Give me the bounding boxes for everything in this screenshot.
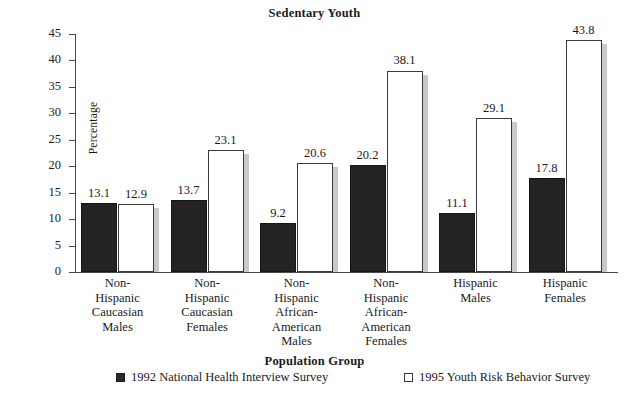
bar-value-label: 11.1 [433, 196, 481, 211]
legend-swatch-filled-icon [116, 373, 125, 382]
y-axis-tick [69, 140, 75, 141]
y-axis-tick-label: 5 [31, 239, 61, 252]
x-axis-category-label-line: Non- [336, 276, 437, 291]
x-axis-category-label-line: American [246, 320, 347, 335]
x-axis-category-label-line: Hispanic [425, 276, 526, 291]
bar[interactable] [171, 200, 207, 272]
bar-value-label: 23.1 [202, 133, 250, 148]
x-axis-category-label-line: African- [336, 305, 437, 320]
y-axis-tick-label: 45 [31, 27, 61, 40]
bar[interactable] [387, 71, 423, 273]
bar[interactable] [297, 163, 333, 272]
bar-value-label: 13.7 [165, 183, 213, 198]
bar-value-label: 17.8 [523, 161, 571, 176]
x-axis-category-label-line: Non- [157, 276, 258, 291]
x-axis-category-label-line: Hispanic [157, 291, 258, 306]
x-axis-category-label-line: Females [515, 291, 616, 306]
bar-value-label: 20.6 [291, 146, 339, 161]
bar-shadow [512, 122, 517, 272]
plot-area: 454035302520151050 13.112.913.723.19.220… [75, 34, 618, 272]
x-axis-category-label: Non-HispanicAfrican-AmericanFemales [336, 276, 437, 349]
bar-value-label: 29.1 [470, 101, 518, 116]
y-axis-tick-label: 40 [31, 53, 61, 66]
x-axis-category-label-line: African- [246, 305, 347, 320]
x-axis-category-label-line: Hispanic [336, 291, 437, 306]
x-axis-category-label-line: Caucasian [157, 305, 258, 320]
bar-value-label: 12.9 [112, 187, 160, 202]
legend-label: 1995 Youth Risk Behavior Survey [419, 370, 590, 385]
x-axis-category-label-line: Non- [246, 276, 347, 291]
chart-title: Sedentary Youth [0, 6, 629, 21]
bar[interactable] [476, 118, 512, 272]
y-axis-tick-label: 30 [31, 106, 61, 119]
bar-value-label: 43.8 [560, 23, 608, 38]
legend-item[interactable]: 1992 National Health Interview Survey [116, 370, 328, 385]
y-axis-tick-label: 25 [31, 133, 61, 146]
bar-shadow [602, 44, 607, 272]
y-axis-tick [69, 246, 75, 247]
x-axis-category-label-line: Males [425, 291, 526, 306]
y-axis-tick-label: 15 [31, 186, 61, 199]
x-axis-category-label-line: Caucasian [67, 305, 168, 320]
x-axis-category-label-line: Females [336, 334, 437, 349]
bar-value-label: 38.1 [381, 53, 429, 68]
x-axis-category-label-line: Hispanic [67, 291, 168, 306]
y-axis-tick [69, 113, 75, 114]
x-axis-category-label-line: American [336, 320, 437, 335]
legend-item[interactable]: 1995 Youth Risk Behavior Survey [404, 370, 590, 385]
x-axis-category-label-line: Males [246, 334, 347, 349]
chart-page: Sedentary Youth 454035302520151050 13.11… [0, 0, 629, 400]
x-axis-category-label-line: Hispanic [515, 276, 616, 291]
bar[interactable] [350, 165, 386, 272]
y-axis-tick-label: 35 [31, 80, 61, 93]
bar-shadow [154, 208, 159, 272]
y-axis-tick-label: 0 [31, 265, 61, 278]
x-axis-category-label-line: Females [157, 320, 258, 335]
x-axis-line [75, 272, 618, 273]
bar-value-label: 9.2 [254, 206, 302, 221]
bar-shadow [423, 75, 428, 273]
x-axis-category-label-line: Hispanic [246, 291, 347, 306]
x-axis-category-label: HispanicMales [425, 276, 526, 305]
y-axis-tick [69, 60, 75, 61]
bar-shadow [244, 154, 249, 272]
x-axis-category-label: HispanicFemales [515, 276, 616, 305]
chart-legend: 1992 National Health Interview Survey199… [0, 370, 629, 390]
x-axis-category-label: Non-HispanicCaucasianFemales [157, 276, 258, 334]
bar[interactable] [81, 203, 117, 272]
y-axis-tick [69, 166, 75, 167]
bar[interactable] [439, 213, 475, 272]
bar[interactable] [208, 150, 244, 272]
legend-swatch-open-icon [404, 373, 413, 382]
y-axis-line [75, 34, 76, 272]
y-axis-tick-label: 20 [31, 159, 61, 172]
legend-label: 1992 National Health Interview Survey [131, 370, 328, 385]
bar[interactable] [260, 223, 296, 272]
x-axis-category-label: Non-HispanicAfrican-AmericanMales [246, 276, 347, 349]
y-axis-tick [69, 219, 75, 220]
bar[interactable] [118, 204, 154, 272]
y-axis-tick [69, 272, 75, 273]
x-axis-category-label-line: Males [67, 320, 168, 335]
bar-value-label: 20.2 [344, 148, 392, 163]
y-axis-tick-label: 10 [31, 212, 61, 225]
y-axis-title: Percentage [87, 68, 99, 188]
x-axis-category-label-line: Non- [67, 276, 168, 291]
x-axis-category-label: Non-HispanicCaucasianMales [67, 276, 168, 334]
y-axis-tick [69, 87, 75, 88]
bar[interactable] [529, 178, 565, 272]
y-axis-tick [69, 34, 75, 35]
x-axis-title: Population Group [0, 354, 629, 369]
bar-shadow [333, 167, 338, 272]
bar[interactable] [566, 40, 602, 272]
